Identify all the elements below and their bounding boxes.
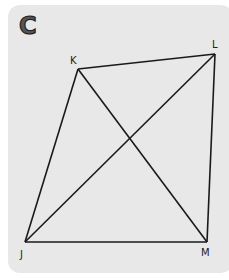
vertex-label-k: K — [70, 55, 77, 66]
segment-kl — [78, 54, 215, 69]
vertex-label-l: L — [212, 39, 218, 50]
vertex-label-j: J — [19, 249, 23, 260]
quadrilateral-diagram: K L M J — [0, 0, 229, 280]
segment-lm — [207, 54, 215, 242]
segment-km — [78, 69, 207, 242]
vertex-label-m: M — [201, 247, 210, 258]
